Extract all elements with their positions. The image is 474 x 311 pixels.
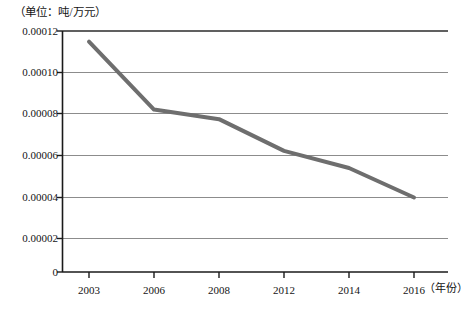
x-tick-label: 2006	[143, 285, 165, 296]
x-tick-label: 2012	[273, 285, 295, 296]
x-tick-label: 2016	[403, 285, 425, 296]
x-axis-tick-labels: 2003 2006 2008 2012 2014 2016	[0, 0, 474, 311]
line-chart: （单位：吨/万元）	[0, 0, 474, 311]
x-tick-label: 2008	[208, 285, 230, 296]
x-axis-unit-label: （年份）	[424, 283, 468, 294]
x-tick-label: 2003	[78, 285, 100, 296]
x-tick-label: 2014	[338, 285, 360, 296]
